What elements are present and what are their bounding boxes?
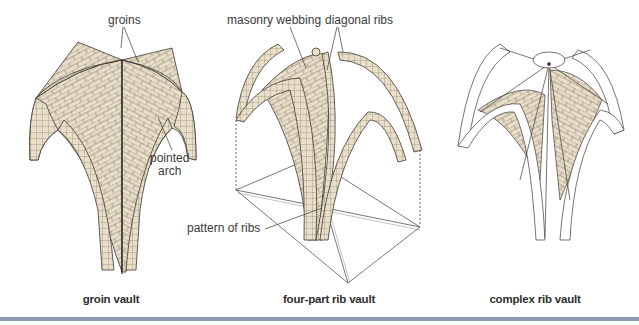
label-groins: groins [108,14,141,27]
caption-complex-rib-vault: complex rib vault [489,293,580,305]
label-pointed-arch-line2: arch [150,165,189,178]
vault-diagram: groins pointed arch masonry webbing diag… [0,0,639,325]
label-pointed-arch: pointed arch [150,152,189,178]
vault-illustrations [0,0,639,325]
caption-groin-vault: groin vault [83,293,140,305]
label-diagonal-ribs: diagonal ribs [325,14,393,27]
bottom-divider [0,317,639,321]
four-part-rib-vault-drawing [236,44,422,283]
complex-rib-vault-drawing [458,44,624,240]
caption-four-part-rib-vault: four-part rib vault [283,293,375,305]
label-masonry-webbing: masonry webbing [227,14,321,27]
label-pattern-of-ribs: pattern of ribs [187,222,260,235]
